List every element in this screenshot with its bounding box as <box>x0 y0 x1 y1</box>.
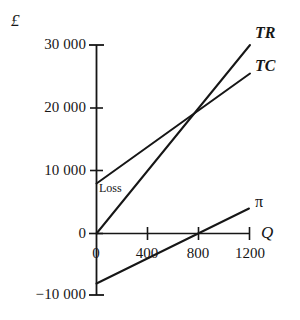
y-tick-label-20000: 20 000 <box>0 100 86 115</box>
x-tick-label-1200: 1200 <box>228 246 272 261</box>
y-tick-label-30000: 30 000 <box>0 37 86 52</box>
chart-canvas: £ Q 30 000 20 000 10 000 0 −10 000 0 400… <box>0 0 300 320</box>
x-tick-label-0: 0 <box>76 246 116 261</box>
y-axis-title: £ <box>11 12 20 29</box>
series-label-tc: TC <box>255 58 275 74</box>
series-label-tr: TR <box>255 25 275 41</box>
x-tick-label-800: 800 <box>178 246 218 261</box>
series-label-pi: π <box>255 194 263 210</box>
y-tick-label-10000: 10 000 <box>0 163 86 178</box>
series-line-tc <box>97 74 251 184</box>
series-line-tr <box>97 45 251 234</box>
series-line-pi <box>97 209 250 284</box>
x-tick-label-400: 400 <box>127 246 167 261</box>
y-tick-label-0: 0 <box>0 226 86 241</box>
x-axis-title: Q <box>261 224 273 241</box>
annotation-loss: Loss <box>99 182 122 194</box>
y-tick-label-minus10000: −10 000 <box>0 287 86 302</box>
